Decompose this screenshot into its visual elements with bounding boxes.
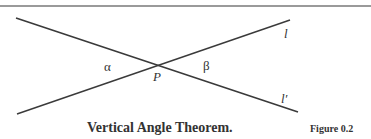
label-angle-beta: β — [203, 59, 210, 72]
line-l — [17, 20, 290, 114]
figure-number: Figure 0.2 — [310, 123, 353, 134]
label-point-p: P — [153, 70, 161, 83]
vertical-angles-diagram — [0, 0, 371, 139]
label-angle-alpha: α — [104, 60, 111, 73]
figure-caption: Vertical Angle Theorem. — [87, 120, 233, 136]
label-line-l: l — [284, 27, 288, 40]
label-line-l-prime: l′ — [281, 92, 287, 105]
